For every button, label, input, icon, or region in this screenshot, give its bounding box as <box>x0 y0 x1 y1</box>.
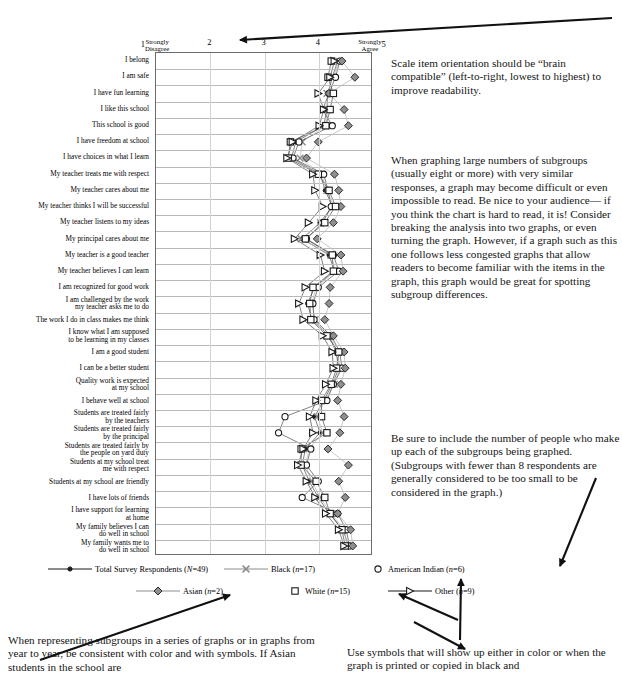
chart-gridline-horizontal <box>156 410 371 411</box>
x-axis-tick-3: 3 <box>261 38 265 47</box>
note-symbol-visibility: Use symbols that will show up either in … <box>347 646 622 673</box>
chart-category-label: I can be a better student <box>0 365 149 373</box>
legend-symbol <box>371 563 385 575</box>
chart-gridline-horizontal <box>156 296 371 297</box>
chart-marker-square-open <box>332 203 338 209</box>
chart-category-label: My teacher listens to my ideas <box>0 219 149 227</box>
chart-category-label: I behave well at school <box>0 397 149 405</box>
legend-marker-triangle-open <box>403 584 417 598</box>
legend-label: American Indian (n=6) <box>388 565 465 574</box>
x-axis-tick-4: 4 <box>316 38 320 47</box>
chart-series-layer <box>156 53 371 554</box>
chart-marker-square-open <box>308 316 314 322</box>
chart-legend: Total Survey Respondents (N=49)Black (n=… <box>48 559 548 603</box>
chart-gridline-horizontal <box>156 280 371 281</box>
legend-entry[interactable]: Other (n=9) <box>388 581 474 601</box>
chart-gridline-horizontal <box>156 540 371 541</box>
chart-marker-square-open <box>326 187 332 193</box>
legend-marker-x-cross <box>239 562 253 576</box>
chart-gridline-horizontal <box>156 459 371 460</box>
chart-category-label: Students at my school are friendly <box>0 478 149 486</box>
chart-category-label: Quality work is expectedat my school <box>0 377 149 392</box>
chart-marker-x-cross <box>243 566 250 573</box>
legend-row: Total Survey Respondents (N=49)Black (n=… <box>48 559 548 579</box>
chart-marker-diamond-grey <box>321 316 329 324</box>
chart-marker-diamond-grey <box>154 587 162 595</box>
legend-symbol <box>388 585 432 597</box>
x-axis-tick-2: 2 <box>207 38 211 47</box>
chart-category-label: This school is good <box>0 121 149 129</box>
chart-marker-circle-open <box>329 123 335 129</box>
note-scale-orientation: Scale item orientation should be “brain … <box>391 57 619 97</box>
chart-gridline-horizontal <box>156 118 371 119</box>
chart-gridline-horizontal <box>156 313 371 314</box>
note-include-n: Be sure to include the number of people … <box>391 432 621 499</box>
chart-marker-square-open <box>302 236 308 242</box>
x-axis-tick-5: StronglyAgree5 <box>358 38 386 52</box>
chart-gridline-horizontal <box>156 85 371 86</box>
chart-gridline-horizontal <box>156 231 371 232</box>
chart-category-label: I am recognized for good work <box>0 283 149 291</box>
chart-marker-square-open <box>322 220 328 226</box>
note-consistent-symbols: When representing subgroups in a series … <box>8 634 328 674</box>
chart-gridline-vertical <box>319 53 320 554</box>
legend-entry[interactable]: Asian (n=2) <box>136 581 223 601</box>
chart-category-label: My teacher treats me with respect <box>0 170 149 178</box>
chart-marker-circle-open <box>375 566 381 572</box>
legend-symbol <box>224 563 268 575</box>
chart-gridline-horizontal <box>156 426 371 427</box>
chart-gridline-horizontal <box>156 215 371 216</box>
chart-marker-square-open <box>307 300 313 306</box>
legend-marker-circle-open <box>371 562 385 576</box>
legend-entry[interactable]: Black (n=17) <box>224 559 315 579</box>
chart-gridline-horizontal <box>156 102 371 103</box>
chart-gridline-horizontal <box>156 183 371 184</box>
legend-entry[interactable]: American Indian (n=6) <box>371 559 465 579</box>
chart-marker-triangle-open <box>310 429 317 436</box>
legend-row: Asian (n=2)White (n=15)Other (n=9) <box>48 581 548 601</box>
chart-category-label: I know what I am supposedto be learning … <box>0 328 149 343</box>
chart-gridline-vertical <box>210 53 211 554</box>
legend-symbol <box>288 585 302 597</box>
chart-marker-diamond-grey <box>351 73 359 81</box>
chart-marker-square-open <box>292 588 298 594</box>
chart-gridline-horizontal <box>156 150 371 151</box>
chart-gridline-horizontal <box>156 378 371 379</box>
legend-entry[interactable]: White (n=15) <box>288 581 350 601</box>
legend-entry[interactable]: Total Survey Respondents (N=49) <box>48 559 208 579</box>
x-axis-tick-1: 1StronglyDisagree <box>141 38 169 52</box>
note-many-subgroups: When graphing large numbers of subgroups… <box>391 154 622 301</box>
chart-gridline-horizontal <box>156 475 371 476</box>
chart-category-label: Students are treated fairlyby the teache… <box>0 409 149 424</box>
chart-gridline-horizontal <box>156 329 371 330</box>
chart-x-axis: 1StronglyDisagree234StronglyAgree5 <box>155 30 372 52</box>
chart-marker-diamond-grey <box>340 413 348 421</box>
chart-marker-diamond-grey <box>341 493 349 501</box>
chart-marker-triangle-open <box>306 413 313 420</box>
legend-label: Asian (n=2) <box>183 587 223 596</box>
chart-marker-diamond-grey <box>335 186 343 194</box>
legend-symbol <box>136 585 180 597</box>
chart-gridline-horizontal <box>156 134 371 135</box>
chart-gridline-horizontal <box>156 199 371 200</box>
legend-marker-circle-filled <box>63 562 77 576</box>
chart-marker-diamond-grey <box>330 170 338 178</box>
chart-category-label: I have fun learning <box>0 89 149 97</box>
chart-marker-triangle-open <box>296 300 303 307</box>
chart-category-label: I have choices in what I learn <box>0 154 149 162</box>
chart-marker-diamond-grey <box>336 429 344 437</box>
chart-marker-triangle-open <box>319 203 326 210</box>
chart-marker-diamond-grey <box>344 122 352 130</box>
chart-marker-circle-open <box>299 494 305 500</box>
chart-marker-square-open <box>330 90 336 96</box>
axis-tick-number: 5 <box>382 39 386 49</box>
chart-marker-circle-filled <box>68 567 72 571</box>
chart-marker-circle-open <box>275 430 281 436</box>
chart-category-label: My teacher is a good teacher <box>0 251 149 259</box>
chart-marker-diamond-grey <box>324 445 332 453</box>
chart-gridline-horizontal <box>156 491 371 492</box>
chart-marker-square-open <box>324 430 330 436</box>
chart-category-label: I have freedom at school <box>0 137 149 145</box>
chart-category-label: My teacher cares about me <box>0 186 149 194</box>
chart-marker-triangle-open <box>312 187 319 194</box>
